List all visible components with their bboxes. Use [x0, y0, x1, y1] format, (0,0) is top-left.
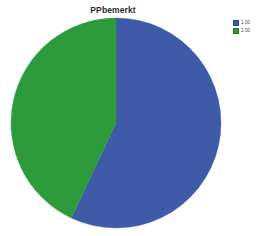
- pie-svg: [8, 12, 224, 234]
- chart-frame: PPbemerkt 1.00 2.00: [0, 0, 256, 236]
- legend-item[interactable]: 2.00: [233, 27, 250, 34]
- legend-swatch-icon: [233, 20, 239, 26]
- pie-chart: [8, 12, 224, 234]
- legend-item[interactable]: 1.00: [233, 19, 250, 26]
- legend-item-label: 1.00: [241, 20, 250, 26]
- legend-item-label: 2.00: [241, 28, 250, 34]
- chart-legend: 1.00 2.00: [233, 19, 250, 34]
- legend-swatch-icon: [233, 28, 239, 34]
